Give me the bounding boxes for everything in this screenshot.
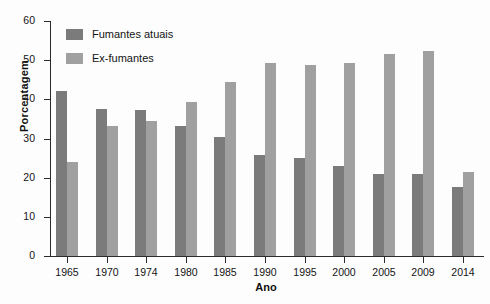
bar <box>107 126 118 256</box>
legend-item: Ex-fumantes <box>66 48 173 68</box>
x-axis-tick <box>384 257 385 263</box>
legend-swatch <box>66 53 83 64</box>
x-axis-tick <box>225 257 226 263</box>
x-axis-tick <box>107 257 108 263</box>
bar <box>186 102 197 256</box>
y-axis-tick-label: 20 <box>23 171 35 183</box>
x-axis-tick <box>146 257 147 263</box>
bar <box>146 121 157 256</box>
x-axis-tick-label: 2009 <box>411 266 434 278</box>
bar <box>384 54 395 256</box>
x-axis-tick-label: 1970 <box>95 266 118 278</box>
bar <box>96 109 107 256</box>
bar <box>214 137 225 256</box>
x-axis-tick <box>423 257 424 263</box>
bar <box>294 158 305 256</box>
x-axis-tick-label: 1980 <box>174 266 197 278</box>
x-axis-line <box>50 256 484 257</box>
legend-swatch <box>66 29 83 40</box>
bar <box>56 91 67 256</box>
bar <box>175 126 186 256</box>
bar <box>373 174 384 256</box>
bar <box>463 172 474 256</box>
x-axis-tick <box>67 257 68 263</box>
x-axis-tick-label: 1974 <box>134 266 157 278</box>
y-axis-tick: 50 <box>44 60 50 61</box>
x-axis-tick-label: 1965 <box>55 266 78 278</box>
chart-legend: Fumantes atuaisEx-fumantes <box>66 24 173 72</box>
x-axis-tick-label: 1995 <box>293 266 316 278</box>
x-axis-tick-label: 2005 <box>372 266 395 278</box>
y-axis-tick-label: 10 <box>23 210 35 222</box>
bar <box>344 63 355 256</box>
x-axis-tick <box>186 257 187 263</box>
x-axis-tick <box>344 257 345 263</box>
bar <box>135 110 146 256</box>
y-axis-line <box>50 21 51 257</box>
y-axis-tick: 30 <box>44 139 50 140</box>
y-axis-tick: 10 <box>44 217 50 218</box>
bar <box>305 65 316 256</box>
x-axis-tick <box>463 257 464 263</box>
y-axis-tick-label: 40 <box>23 92 35 104</box>
y-axis-tick-label: 30 <box>23 132 35 144</box>
x-axis-tick-label: 2000 <box>332 266 355 278</box>
y-axis-tick: 40 <box>44 99 50 100</box>
x-axis-tick <box>265 257 266 263</box>
bar <box>423 51 434 256</box>
x-axis-tick-label: 1990 <box>253 266 276 278</box>
bar-chart: Porcentagem 0102030405060 19651970197419… <box>0 0 490 304</box>
y-axis-tick-label: 60 <box>23 14 35 26</box>
bar <box>254 155 265 256</box>
bar <box>67 162 78 256</box>
legend-item: Fumantes atuais <box>66 24 173 44</box>
x-axis-tick-label: 2014 <box>451 266 474 278</box>
legend-label: Fumantes atuais <box>92 28 173 40</box>
x-axis-tick <box>305 257 306 263</box>
bar <box>452 187 463 256</box>
x-axis-title: Ano <box>48 281 484 293</box>
y-axis-tick: 20 <box>44 178 50 179</box>
x-axis-tick-label: 1985 <box>213 266 236 278</box>
y-axis-tick: 0 <box>44 256 50 257</box>
y-axis-tick-label: 50 <box>23 53 35 65</box>
bar <box>333 166 344 256</box>
bar <box>412 174 423 256</box>
y-axis-tick: 60 <box>44 21 50 22</box>
legend-label: Ex-fumantes <box>92 52 154 64</box>
y-axis-tick-label: 0 <box>29 249 35 261</box>
bar <box>265 63 276 256</box>
bar <box>225 82 236 256</box>
